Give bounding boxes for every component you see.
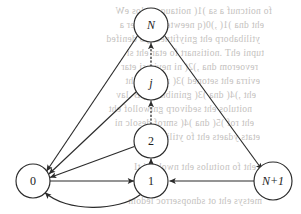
node-j[interactable]: j bbox=[134, 66, 168, 100]
edge-1-to-0 bbox=[45, 193, 141, 208]
node-layer: N j 2 1 0 N+1 bbox=[16, 8, 292, 200]
node-0[interactable]: 0 bbox=[16, 164, 50, 198]
node-N[interactable]: N bbox=[134, 8, 168, 42]
node-N-plus-1[interactable]: N+1 bbox=[254, 162, 292, 200]
node-N-plus-1-label: N+1 bbox=[261, 174, 284, 188]
node-0-label: 0 bbox=[30, 174, 36, 188]
edge-N-to-Np1 bbox=[165, 36, 263, 170]
node-1-label: 1 bbox=[148, 174, 154, 188]
node-2[interactable]: 2 bbox=[134, 124, 168, 158]
state-transition-graph: N j 2 1 0 N+1 bbox=[0, 0, 301, 214]
node-N-label: N bbox=[146, 18, 156, 32]
node-1[interactable]: 1 bbox=[134, 164, 168, 198]
node-2-label: 2 bbox=[148, 134, 154, 148]
diagram-canvas: fo noitcnuf a sa )1( noitauqe evlos eWeh… bbox=[0, 0, 301, 214]
edge-2-to-0 bbox=[50, 147, 134, 178]
